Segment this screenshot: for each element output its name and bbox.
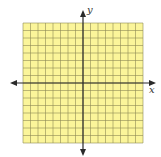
- y-axis-arrow-down-icon: [80, 149, 86, 156]
- y-axis-arrow-up-icon: [80, 10, 86, 17]
- x-axis-label: x: [149, 84, 155, 95]
- y-axis-label: y: [86, 4, 93, 15]
- x-axis-arrow-left-icon: [10, 80, 17, 86]
- coordinate-grid: x y: [0, 0, 161, 157]
